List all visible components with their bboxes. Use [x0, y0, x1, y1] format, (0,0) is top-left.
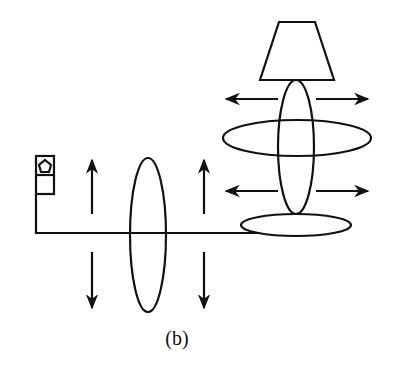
pentagon-icon	[39, 160, 51, 172]
figure-caption: (b)	[165, 327, 188, 350]
vertical-lens-ellipse	[278, 80, 314, 214]
detector-trapezoid	[260, 22, 334, 80]
horizontal-ellipse	[223, 120, 371, 156]
fiber-line	[36, 194, 258, 233]
vertical-polarization-ellipse	[130, 158, 166, 312]
optics-diagram: (b)	[0, 0, 398, 366]
fiber-coil	[241, 214, 351, 236]
horizontal-arrows	[226, 99, 368, 191]
light-source	[36, 156, 54, 194]
